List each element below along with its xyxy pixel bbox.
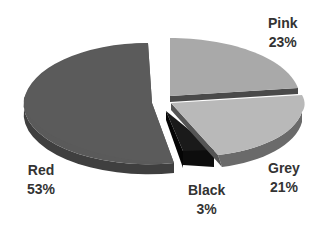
label-pink-value: 23%	[268, 33, 298, 52]
label-red-value: 53%	[27, 180, 55, 199]
pie-chart: Pink 23% Grey 21% Black 3% Red 53%	[0, 0, 323, 230]
label-red: Red 53%	[27, 161, 55, 199]
label-black: Black 3%	[188, 181, 225, 219]
label-pink: Pink 23%	[268, 14, 298, 52]
label-pink-name: Pink	[268, 14, 298, 33]
label-grey: Grey 21%	[268, 159, 300, 197]
label-black-name: Black	[188, 181, 225, 200]
label-grey-name: Grey	[268, 159, 300, 178]
label-grey-value: 21%	[268, 178, 300, 197]
label-black-value: 3%	[188, 200, 225, 219]
label-red-name: Red	[27, 161, 55, 180]
